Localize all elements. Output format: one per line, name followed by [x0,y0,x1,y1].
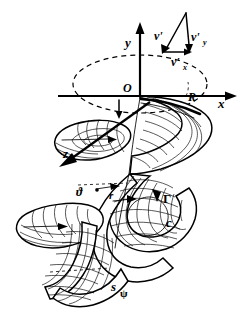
helicoid-middle-sheet [92,174,196,282]
velocity-tangential-label: v' x [171,55,187,72]
svg-text:y: y [202,38,207,47]
helicoid-upper-sheet [55,96,212,174]
diagram-canvas: y x z O R v' v' y v' x ϑ r Γ c s ψ [0,0,243,318]
helix-angle-label: ϑ [76,185,83,199]
pitch-angle-psi-arrow [116,100,123,119]
svg-text:v': v' [191,30,200,44]
helical-vortex-sheet-diagram: y x z O R v' v' y v' x ϑ r Γ c s ψ [0,0,243,318]
svg-text:v': v' [171,55,180,69]
velocity-resultant-label: v' [154,29,163,43]
y-axis-label: y [123,35,131,50]
radius-vector-label: r [109,189,114,201]
y-axis-arrowhead [136,22,145,34]
svg-text:s: s [110,279,116,294]
z-axis-label: z [62,146,69,161]
contour-label: c [166,215,172,230]
x-axis-arrowhead [225,92,237,101]
origin-label: O [123,81,132,95]
svg-text:x: x [182,63,187,72]
radius-label: R [187,90,196,104]
circulation-label: Γ [163,191,171,206]
velocity-triangle [161,13,193,56]
velocity-axial-label: v' y [191,30,207,47]
x-axis-label: x [217,96,225,111]
svg-text:ψ: ψ [120,287,128,299]
